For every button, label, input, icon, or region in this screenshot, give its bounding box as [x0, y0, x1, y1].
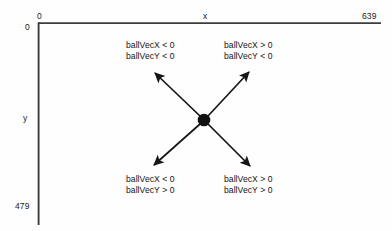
quadrant-label-top-left-line1: ballVecX < 0	[126, 40, 175, 51]
x-axis-name-label: x	[203, 11, 207, 21]
arrow-down-left	[154, 124, 200, 165]
quadrant-label-top-left: ballVecX < 0 ballVecY < 0	[126, 40, 175, 63]
arrow-up-right	[208, 72, 249, 116]
axes-and-vectors-graphic	[0, 0, 392, 231]
quadrant-label-top-right-line1: ballVecX > 0	[224, 40, 273, 51]
arrow-down-right	[208, 124, 250, 166]
y-axis-origin-tick-label: 0	[25, 22, 30, 32]
quadrant-label-bottom-left-line1: ballVecX < 0	[126, 174, 175, 185]
quadrant-label-bottom-left-line2: ballVecY > 0	[126, 185, 175, 196]
y-axis-max-tick-label: 479	[15, 201, 29, 211]
quadrant-label-bottom-right: ballVecX > 0 ballVecY > 0	[224, 174, 273, 197]
y-axis-name-label: y	[23, 113, 27, 123]
quadrant-label-bottom-right-line1: ballVecX > 0	[224, 174, 273, 185]
ball-center-point	[198, 114, 211, 127]
diagram-canvas: 0 0 639 479 x y ballVecX < 0 ballVecY < …	[0, 0, 392, 231]
quadrant-label-top-right: ballVecX > 0 ballVecY < 0	[224, 40, 273, 63]
quadrant-label-bottom-right-line2: ballVecY > 0	[224, 185, 273, 196]
quadrant-label-top-right-line2: ballVecY < 0	[224, 51, 273, 62]
x-axis-max-tick-label: 639	[362, 11, 376, 21]
quadrant-label-top-left-line2: ballVecY < 0	[126, 51, 175, 62]
arrow-up-left	[155, 73, 200, 116]
quadrant-label-bottom-left: ballVecX < 0 ballVecY > 0	[126, 174, 175, 197]
x-axis-origin-tick-label: 0	[37, 11, 42, 21]
